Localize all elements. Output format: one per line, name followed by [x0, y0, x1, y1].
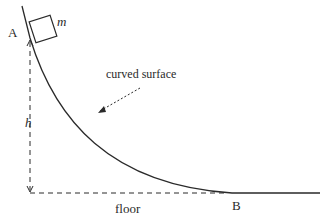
- curved-surface-diagram: A m h curved surface floor B: [0, 0, 331, 222]
- surface-pointer-arrow-icon: [98, 106, 106, 113]
- point-a-label: A: [8, 25, 18, 40]
- floor-label: floor: [115, 201, 141, 216]
- mass-label: m: [57, 14, 66, 29]
- mass-block: [29, 15, 57, 43]
- surface-label: curved surface: [106, 67, 176, 81]
- point-b-label: B: [232, 198, 241, 213]
- height-label: h: [25, 115, 32, 130]
- curved-surface-line: [22, 6, 320, 193]
- surface-pointer-line: [100, 88, 140, 111]
